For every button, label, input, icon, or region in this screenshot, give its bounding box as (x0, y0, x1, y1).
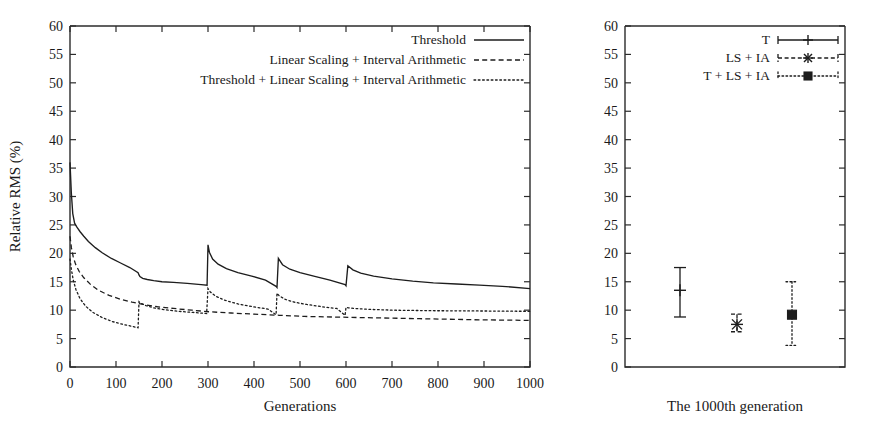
left-y-tick-label: 0 (56, 360, 63, 375)
left-series-dotted (70, 259, 530, 328)
right-legend-marker-square (804, 72, 812, 80)
left-y-tick-label: 30 (49, 190, 63, 205)
right-panel-caption: The 1000th generation (667, 398, 803, 414)
left-x-tick-label: 600 (336, 376, 357, 391)
right-y-tick-label: 35 (604, 161, 618, 176)
left-legend-label: Threshold (411, 32, 466, 47)
figure-container: 0510152025303540455055600100200300400500… (0, 0, 869, 443)
left-x-tick-label: 900 (474, 376, 495, 391)
right-y-tick-label: 10 (604, 303, 618, 318)
left-y-axis-title: Relative RMS (%) (7, 141, 24, 253)
left-legend-label: Threshold + Linear Scaling + Interval Ar… (200, 72, 466, 87)
left-y-tick-label: 35 (49, 161, 63, 176)
left-x-tick-label: 1000 (516, 376, 544, 391)
left-y-tick-label: 45 (49, 104, 63, 119)
right-y-tick-label: 55 (604, 47, 618, 62)
left-x-tick-label: 800 (428, 376, 449, 391)
left-x-tick-label: 300 (198, 376, 219, 391)
chart-canvas: 0510152025303540455055600100200300400500… (0, 0, 869, 443)
right-y-tick-label: 0 (611, 360, 618, 375)
marker-square (788, 310, 797, 319)
right-y-tick-label: 30 (604, 190, 618, 205)
left-x-tick-label: 0 (67, 376, 74, 391)
left-y-tick-label: 20 (49, 246, 63, 261)
left-series-solid (70, 162, 530, 288)
left-x-tick-label: 200 (152, 376, 173, 391)
left-y-tick-label: 10 (49, 303, 63, 318)
left-y-tick-label: 50 (49, 76, 63, 91)
right-y-tick-label: 50 (604, 76, 618, 91)
right-legend-label: T (762, 32, 771, 47)
right-y-tick-label: 40 (604, 133, 618, 148)
left-x-tick-label: 100 (106, 376, 127, 391)
right-y-tick-label: 60 (604, 19, 618, 34)
right-y-tick-label: 45 (604, 104, 618, 119)
left-y-tick-label: 15 (49, 275, 63, 290)
left-x-tick-label: 500 (290, 376, 311, 391)
left-y-tick-label: 40 (49, 133, 63, 148)
right-y-tick-label: 15 (604, 275, 618, 290)
right-y-tick-label: 5 (611, 332, 618, 347)
left-y-tick-label: 55 (49, 47, 63, 62)
left-y-tick-label: 5 (56, 332, 63, 347)
left-y-tick-label: 60 (49, 19, 63, 34)
right-legend-label: T + LS + IA (703, 68, 770, 83)
left-x-tick-label: 400 (244, 376, 265, 391)
left-series-dashed (70, 236, 530, 320)
right-y-tick-label: 20 (604, 246, 618, 261)
right-y-tick-label: 25 (604, 218, 618, 233)
left-y-tick-label: 25 (49, 218, 63, 233)
left-x-axis-title: Generations (264, 398, 337, 414)
left-x-tick-label: 700 (382, 376, 403, 391)
left-legend-label: Linear Scaling + Interval Arithmetic (269, 52, 466, 67)
right-legend-label: LS + IA (726, 50, 771, 65)
